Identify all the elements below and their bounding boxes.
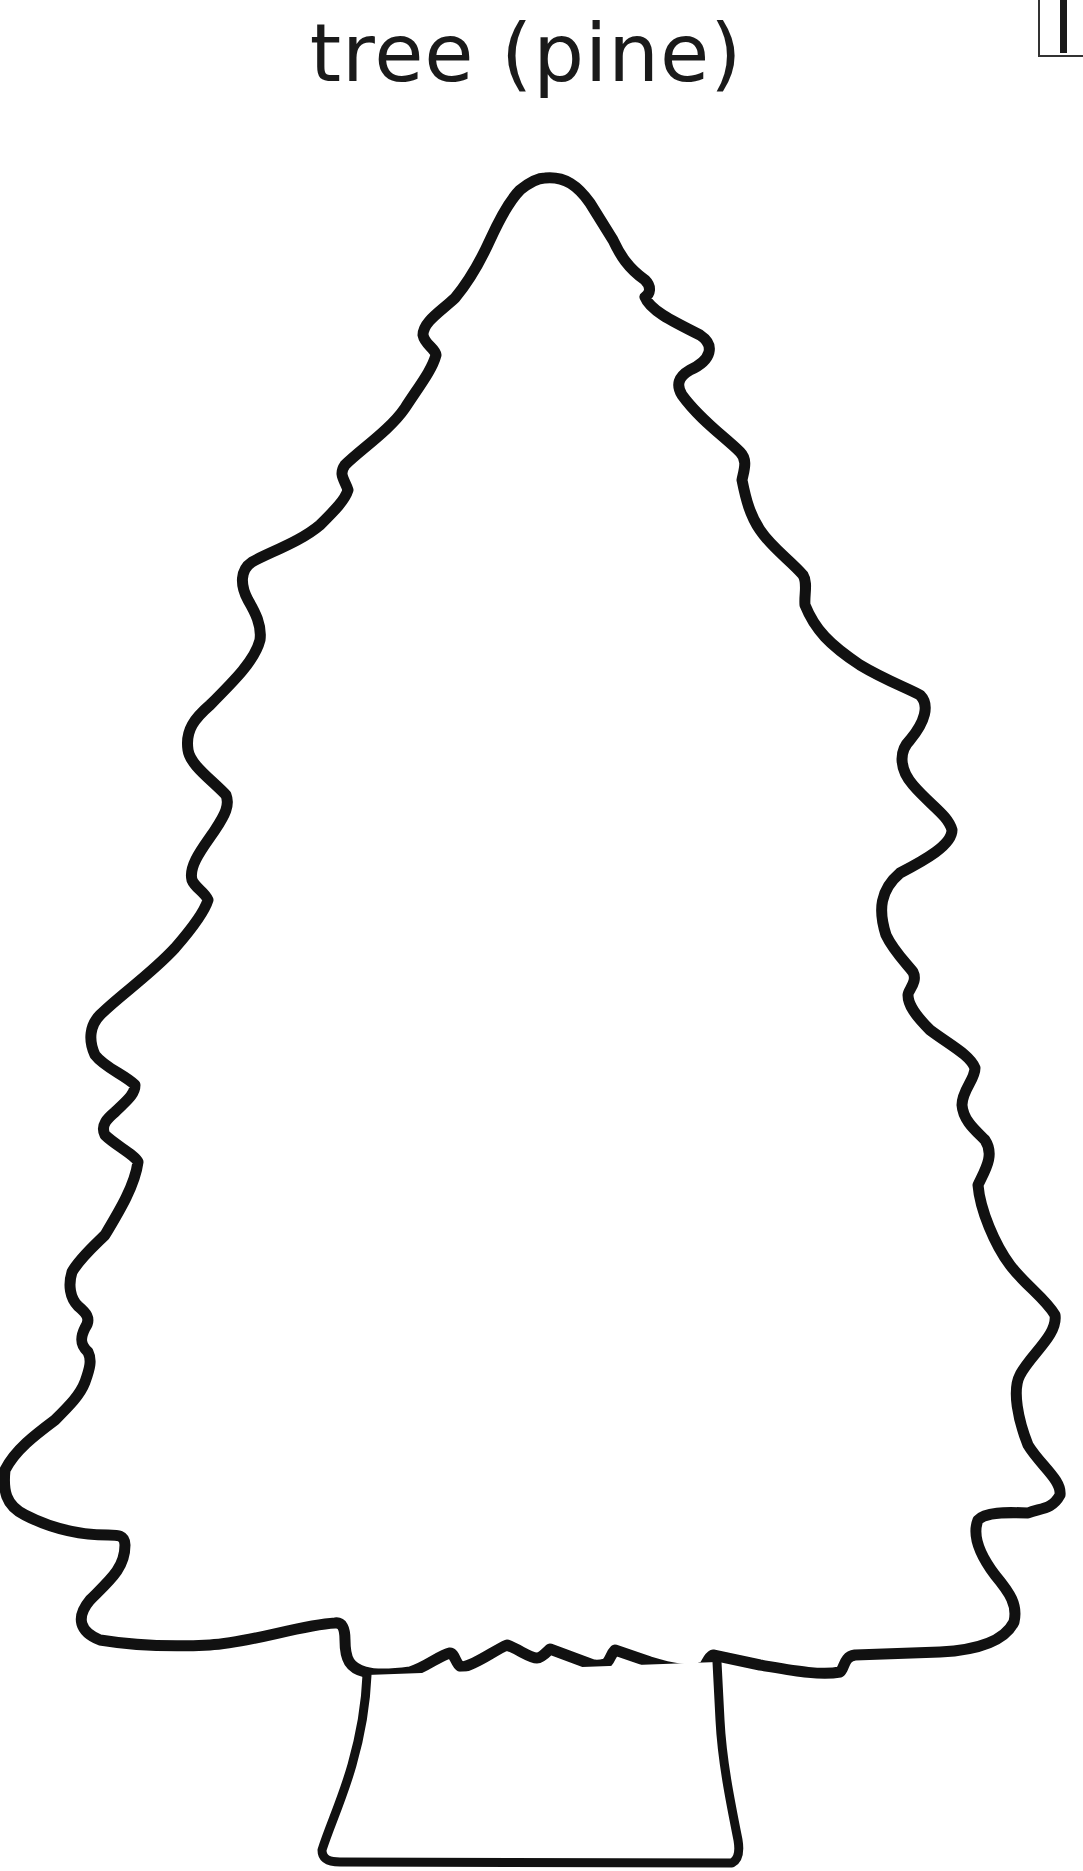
tree-canopy-outline: [4, 178, 1060, 1674]
pine-tree-outline-icon: [0, 0, 1083, 1871]
worksheet-page: tree (pine): [0, 0, 1083, 1871]
tree-trunk-outline: [322, 1662, 739, 1863]
